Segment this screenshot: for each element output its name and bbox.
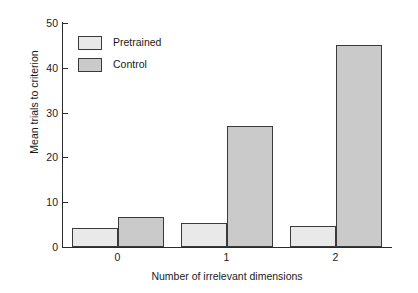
y-tick-20 [63, 157, 68, 158]
legend-item-control: Control [78, 55, 161, 74]
y-tick-0 [63, 247, 68, 248]
y-tick-10 [63, 202, 68, 203]
x-axis-line [62, 247, 392, 248]
y-tick-label-0: 0 [18, 242, 58, 253]
legend-swatch-pretrained [78, 36, 102, 50]
legend-item-pretrained: Pretrained [78, 33, 161, 52]
x-axis-title: Number of irrelevant dimensions [62, 270, 392, 282]
x-tick-label-2: 2 [321, 252, 351, 263]
bar-pretrained-2 [290, 226, 336, 247]
y-tick-30 [63, 113, 68, 114]
bar-chart-figure: 01020304050 012 Mean trials to criterion… [0, 0, 418, 293]
y-axis-line [62, 22, 63, 248]
y-axis-title: Mean trials to criterion [28, 22, 40, 182]
y-tick-40 [63, 68, 68, 69]
bar-control-2 [336, 45, 382, 247]
x-tick-label-1: 1 [212, 252, 242, 263]
bar-pretrained-1 [181, 223, 227, 247]
y-tick-50 [63, 23, 68, 24]
bar-pretrained-0 [72, 228, 118, 247]
bar-control-0 [118, 217, 164, 247]
legend-label-control: Control [113, 59, 147, 70]
y-tick-label-10: 10 [18, 197, 58, 208]
x-tick-label-0: 0 [103, 252, 133, 263]
legend: Pretrained Control [78, 33, 161, 77]
legend-swatch-control [78, 58, 102, 72]
legend-label-pretrained: Pretrained [113, 37, 161, 48]
bar-control-1 [227, 126, 273, 247]
